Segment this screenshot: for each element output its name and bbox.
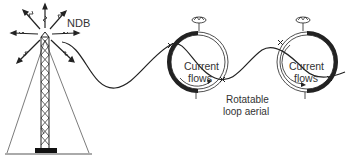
ndb-label: NDB: [67, 17, 90, 29]
ndb-loop-aerial-diagram: NDB Current flows: [0, 0, 357, 166]
loop-aerial-1-icon: [168, 17, 228, 99]
loop1-label-line2: flows: [188, 72, 212, 84]
aerial-caption-line2: loop aerial: [223, 106, 269, 117]
loop-aerial-2-icon: [277, 17, 337, 99]
loop2-label-line1: Current: [289, 60, 324, 72]
loop2-label-line2: flows: [294, 72, 318, 84]
aerial-caption-line1: Rotatable: [226, 94, 269, 105]
loop1-label-line1: Current: [184, 60, 219, 72]
